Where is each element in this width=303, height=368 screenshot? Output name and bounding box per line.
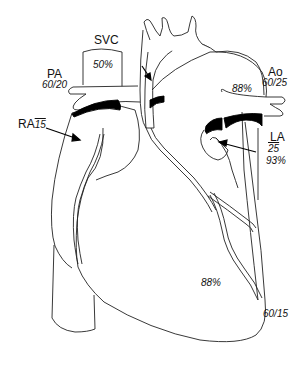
la-label: LA [270, 131, 285, 143]
anterior-groove-outer [73, 134, 100, 264]
la-saturation: 93% [266, 156, 286, 166]
heart-diagram [0, 0, 303, 368]
pa-pressure: 60/20 [42, 80, 67, 90]
la-shade [224, 114, 262, 129]
ao-saturation: 88% [232, 84, 252, 94]
ra-arrowhead [72, 134, 80, 141]
diagonal-outer [208, 196, 253, 232]
ra-mean-pressure: 15 [35, 119, 46, 130]
ao-pressure: 60/25 [262, 78, 287, 88]
ra-name: RA [18, 117, 35, 131]
pulmonary-vein-upper [264, 97, 285, 116]
lad-inner [214, 193, 262, 298]
ivc-vessel [52, 245, 95, 332]
la-mean-pressure: 25 [268, 144, 279, 154]
svc-saturation: 50% [93, 60, 113, 70]
ventricle-saturation: 88% [201, 278, 221, 288]
la-shade-2 [204, 118, 222, 136]
ventricle-pressure: 60/15 [263, 309, 288, 319]
svc-label: SVC [94, 34, 119, 46]
ra-bulge [72, 106, 139, 180]
ra-label: RA15 [18, 118, 46, 130]
